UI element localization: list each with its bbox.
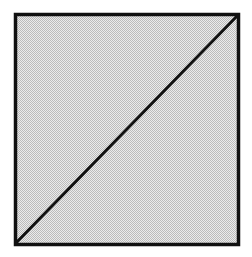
figure-canvas: [0, 0, 252, 257]
square-with-diagonal-figure: [0, 0, 252, 257]
